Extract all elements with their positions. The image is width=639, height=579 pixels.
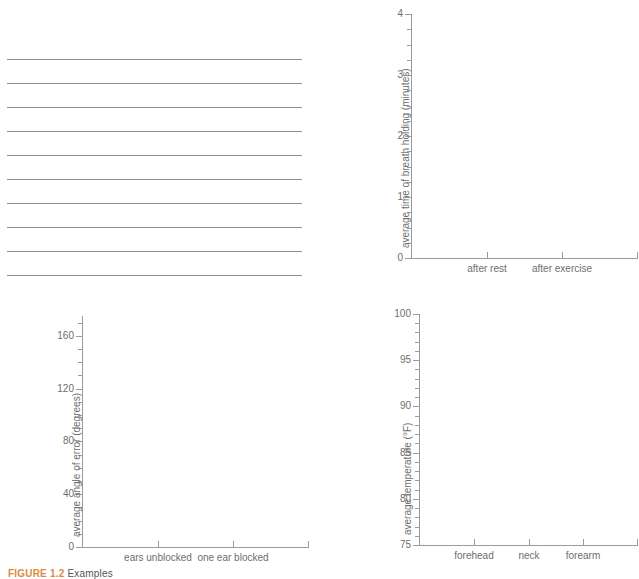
- y-axis-minor-tick: [415, 508, 419, 509]
- y-axis-minor-tick: [415, 425, 419, 426]
- x-axis-category-tick: [562, 252, 563, 258]
- plot-area-breath-holding: 01234average time of breath holding (min…: [389, 10, 639, 268]
- ruled-line: [7, 227, 302, 228]
- y-axis-major-tick: [76, 336, 82, 337]
- y-axis-label: average time of breath holding (minutes): [401, 68, 411, 248]
- figure-caption-text: Examples: [67, 568, 113, 579]
- y-axis-minor-tick: [415, 490, 419, 491]
- ruled-line: [7, 203, 302, 204]
- ruled-line: [7, 107, 302, 108]
- x-axis-line: [419, 545, 638, 546]
- ruled-line: [7, 275, 302, 276]
- y-axis-minor-tick: [415, 388, 419, 389]
- y-axis-minor-tick: [415, 369, 419, 370]
- y-axis-minor-tick: [78, 349, 82, 350]
- ruled-line: [7, 251, 302, 252]
- y-axis-major-tick: [413, 314, 419, 315]
- x-axis-line: [411, 258, 638, 259]
- y-axis-tick-label: 90: [381, 401, 411, 411]
- x-axis-category-tick: [583, 539, 584, 545]
- y-axis-line: [82, 316, 83, 547]
- ruled-line: [7, 59, 302, 60]
- x-axis-end-tick: [637, 539, 638, 545]
- x-axis-tick-label: forearm: [523, 551, 639, 561]
- y-axis-minor-tick: [415, 379, 419, 380]
- chart-breath-holding: 01234average time of breath holding (min…: [389, 10, 639, 268]
- y-axis-line: [411, 14, 412, 258]
- y-axis-tick-label: 100: [381, 309, 411, 319]
- y-axis-minor-tick: [415, 536, 419, 537]
- ruled-line: [7, 83, 302, 84]
- x-axis-end-tick: [308, 541, 309, 547]
- y-axis-major-tick: [76, 389, 82, 390]
- y-axis-minor-tick: [415, 517, 419, 518]
- y-axis-minor-tick: [415, 443, 419, 444]
- ruled-line: [7, 131, 302, 132]
- y-axis-tick-label: 80: [44, 436, 74, 446]
- y-axis-tick-label: 1: [373, 192, 403, 202]
- y-axis-major-tick: [413, 453, 419, 454]
- y-axis-minor-tick: [415, 480, 419, 481]
- y-axis-minor-tick: [415, 397, 419, 398]
- y-axis-minor-tick: [407, 29, 411, 30]
- y-axis-major-tick: [413, 545, 419, 546]
- x-axis-tick-label: one ear blocked: [173, 553, 293, 563]
- x-axis-category-tick: [474, 539, 475, 545]
- y-axis-tick-label: 4: [373, 9, 403, 19]
- y-axis-major-tick: [413, 406, 419, 407]
- figure-caption-label: FIGURE 1.2: [8, 568, 64, 579]
- x-axis-category-tick: [158, 541, 159, 547]
- y-axis-major-tick: [413, 499, 419, 500]
- y-axis-label: average angle of error (degrees): [72, 393, 82, 537]
- x-axis-end-tick: [637, 252, 638, 258]
- y-axis-minor-tick: [415, 527, 419, 528]
- y-axis-label: average temperature (°F): [403, 423, 413, 535]
- y-axis-minor-tick: [415, 342, 419, 343]
- y-axis-minor-tick: [415, 351, 419, 352]
- y-axis-minor-tick: [78, 362, 82, 363]
- plot-area-angle-of-error: 04080120160average angle of error (degre…: [60, 312, 310, 555]
- x-axis-category-tick: [233, 541, 234, 547]
- y-axis-minor-tick: [415, 332, 419, 333]
- y-axis-minor-tick: [415, 323, 419, 324]
- y-axis-major-tick: [405, 258, 411, 259]
- y-axis-minor-tick: [415, 471, 419, 472]
- x-axis-tick-label: after exercise: [502, 264, 622, 274]
- y-axis-major-tick: [405, 14, 411, 15]
- y-axis-tick-label: 120: [44, 384, 74, 394]
- chart-skin-temperature: 7580859095100average temperature (°F)for…: [389, 310, 639, 555]
- x-axis-line: [82, 547, 309, 548]
- figure-caption: FIGURE 1.2 Examples: [8, 568, 113, 579]
- y-axis-tick-label: 75: [381, 540, 411, 550]
- y-axis-tick-label: 3: [373, 70, 403, 80]
- y-axis-minor-tick: [78, 375, 82, 376]
- y-axis-tick-label: 0: [44, 542, 74, 552]
- chart-angle-of-error: 04080120160average angle of error (degre…: [60, 312, 310, 555]
- y-axis-minor-tick: [407, 45, 411, 46]
- x-axis-category-tick: [529, 539, 530, 545]
- ruled-line: [7, 179, 302, 180]
- y-axis-tick-label: 160: [44, 331, 74, 341]
- y-axis-minor-tick: [78, 323, 82, 324]
- blank-ruled-writing-area: [0, 0, 330, 290]
- y-axis-major-tick: [76, 547, 82, 548]
- x-axis-category-tick: [487, 252, 488, 258]
- y-axis-tick-label: 0: [373, 253, 403, 263]
- y-axis-minor-tick: [407, 60, 411, 61]
- plot-area-skin-temperature: 7580859095100average temperature (°F)for…: [389, 310, 639, 555]
- y-axis-minor-tick: [415, 462, 419, 463]
- y-axis-line: [419, 314, 420, 545]
- ruled-line: [7, 155, 302, 156]
- y-axis-tick-label: 2: [373, 131, 403, 141]
- y-axis-major-tick: [413, 360, 419, 361]
- y-axis-tick-label: 40: [44, 489, 74, 499]
- y-axis-minor-tick: [415, 416, 419, 417]
- y-axis-tick-label: 95: [381, 355, 411, 365]
- y-axis-minor-tick: [415, 434, 419, 435]
